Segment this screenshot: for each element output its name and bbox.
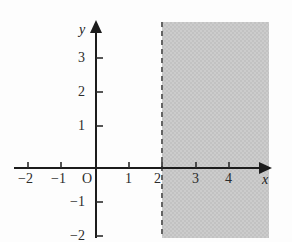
y-axis-arrowhead [90,20,102,33]
x-tick-label--1: −1 [51,172,66,186]
plot-canvas [0,0,292,242]
shaded-region [162,22,269,238]
x-axis-label: x [262,173,268,187]
y-axis-label: y [79,23,85,37]
y-tick-label-3: 3 [78,51,85,65]
origin-label: O [82,172,92,186]
y-tick-label-2: 2 [78,85,85,99]
x-tick-label-2: 2 [154,172,161,186]
x-tick-label-4: 4 [225,172,232,186]
x-tick-label-1: 1 [125,172,132,186]
y-tick-label-1: 1 [78,119,85,133]
y-tick-label--1: −1 [70,195,85,209]
y-tick-label--2: −2 [70,229,85,242]
x-tick-label--2: −2 [18,172,33,186]
coordinate-plane-figure: −2 −1 1 2 3 4 3 2 1 −1 −2 O y x [0,0,292,242]
x-tick-label-3: 3 [192,172,199,186]
